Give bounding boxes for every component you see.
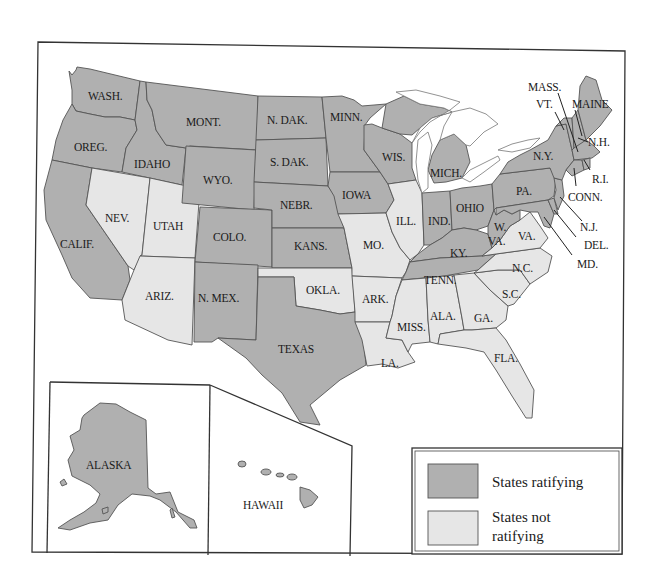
label-conn: CONN. bbox=[568, 191, 603, 203]
label-ohio: OHIO bbox=[456, 202, 484, 214]
label-ri: R.I. bbox=[592, 173, 609, 185]
label-sdak: S. DAK. bbox=[270, 156, 309, 168]
label-ill: ILL. bbox=[396, 215, 416, 227]
hawaii-inset: HAWAII bbox=[210, 385, 352, 556]
label-calif: CALIF. bbox=[60, 238, 94, 250]
label-ark: ARK. bbox=[362, 293, 389, 305]
label-idaho: IDAHO bbox=[134, 158, 170, 170]
legend-label-not-ratifying-1: States not bbox=[492, 509, 552, 525]
label-oreg: OREG. bbox=[74, 141, 108, 153]
legend-label-not-ratifying-2: ratifying bbox=[492, 528, 544, 544]
label-ga: GA. bbox=[474, 312, 493, 324]
label-nh: N.H. bbox=[588, 136, 610, 148]
label-ala: ALA. bbox=[430, 310, 456, 322]
label-vt: VT. bbox=[536, 98, 553, 110]
label-ariz: ARIZ. bbox=[145, 290, 174, 302]
label-ndak: N. DAK. bbox=[267, 114, 308, 126]
label-iowa: IOWA bbox=[342, 189, 372, 201]
label-hawaii: HAWAII bbox=[243, 499, 283, 511]
label-colo: COLO. bbox=[213, 231, 247, 243]
label-md: MD. bbox=[577, 258, 598, 270]
legend-label-ratifying: States ratifying bbox=[492, 474, 584, 490]
label-mo: MO. bbox=[363, 239, 384, 251]
label-nj: N.J. bbox=[580, 221, 598, 233]
label-del: DEL. bbox=[584, 239, 609, 251]
state-fla bbox=[438, 328, 534, 418]
legend-swatch-not-ratifying bbox=[428, 511, 478, 545]
label-ind: IND. bbox=[428, 215, 451, 227]
label-nc: N.C. bbox=[512, 262, 533, 274]
legend: States ratifying States not ratifying bbox=[412, 448, 622, 554]
label-wash: WASH. bbox=[88, 90, 123, 102]
label-miss: MISS. bbox=[397, 321, 426, 333]
label-wis: WIS. bbox=[382, 151, 405, 163]
label-kans: KANS. bbox=[294, 240, 328, 252]
alaska-inset: ALASKA bbox=[47, 382, 210, 555]
label-wyo: WYO. bbox=[203, 174, 233, 186]
label-la: LA. bbox=[381, 357, 399, 369]
label-fla: FLA. bbox=[494, 352, 518, 364]
label-nebr: NEBR. bbox=[280, 199, 313, 211]
label-sc: S.C. bbox=[502, 288, 521, 300]
label-wva-line2: VA. bbox=[488, 235, 506, 247]
label-alaska: ALASKA bbox=[86, 459, 132, 471]
legend-swatch-ratifying bbox=[428, 464, 478, 498]
label-mass: MASS. bbox=[528, 81, 562, 93]
label-maine: MAINE bbox=[572, 98, 609, 110]
label-wva-line1: W. bbox=[494, 221, 507, 233]
label-ky: KY. bbox=[450, 247, 468, 259]
label-minn: MINN. bbox=[330, 111, 363, 123]
label-ny: N.Y. bbox=[533, 150, 553, 162]
leader-del bbox=[554, 210, 576, 237]
label-va: VA. bbox=[518, 230, 536, 242]
label-nev: NEV. bbox=[105, 212, 130, 224]
label-mich: MICH. bbox=[430, 167, 462, 179]
label-tenn: TENN. bbox=[424, 274, 457, 286]
label-nmex: N. MEX. bbox=[198, 292, 239, 304]
label-pa: PA. bbox=[516, 185, 532, 197]
leader-md bbox=[544, 217, 572, 255]
label-utah: UTAH bbox=[153, 220, 183, 232]
label-okla: OKLA. bbox=[306, 284, 340, 296]
label-texas: TEXAS bbox=[278, 343, 314, 355]
label-mont: MONT. bbox=[186, 116, 221, 128]
us-ratification-map: WASH. OREG. CALIF. IDAHO NEV. UTAH ARIZ.… bbox=[0, 0, 658, 582]
